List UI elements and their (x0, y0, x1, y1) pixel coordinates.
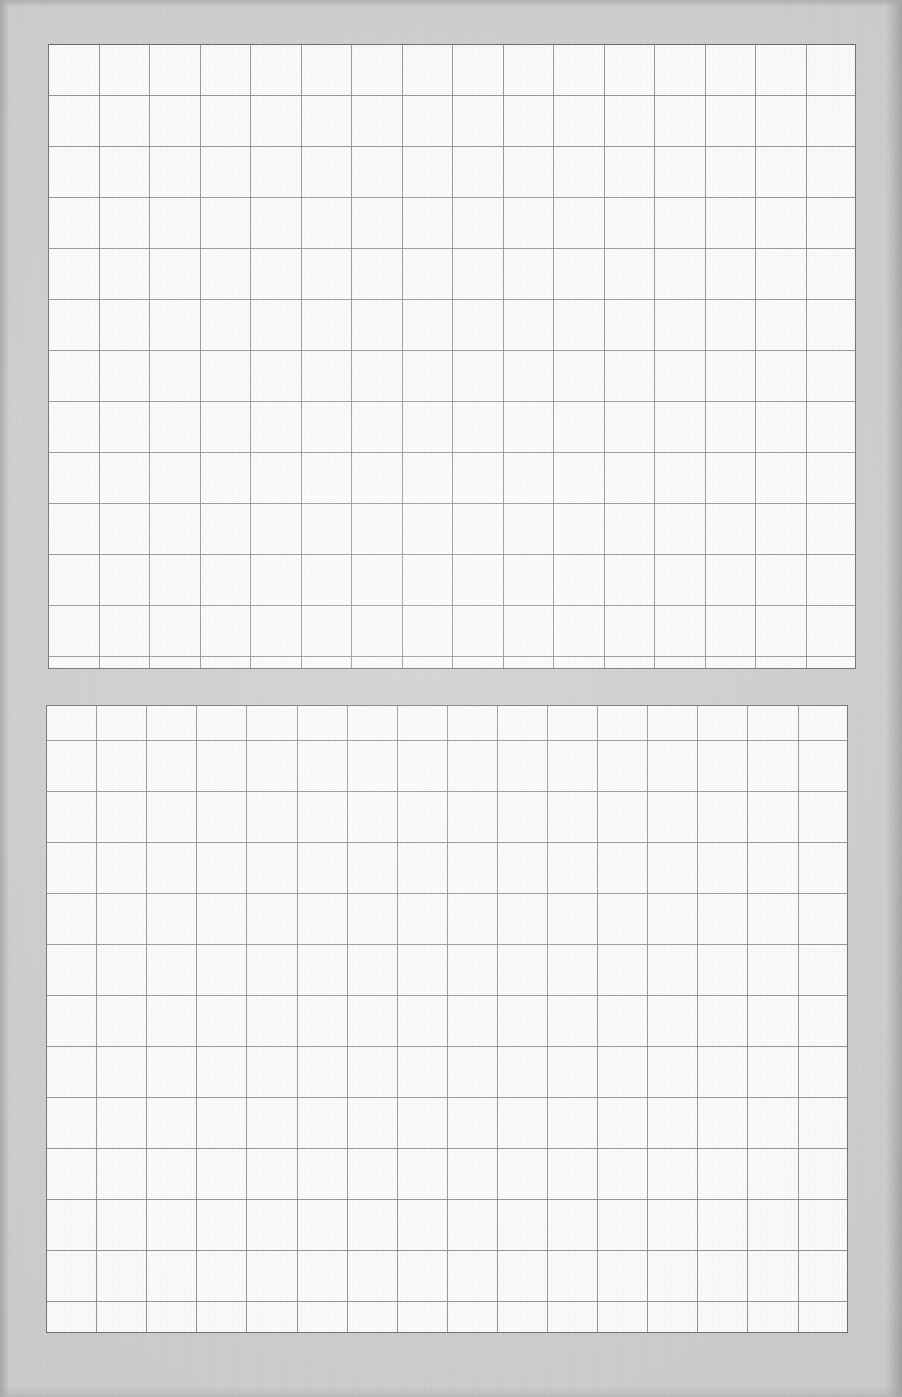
grid-table-bottom (46, 705, 848, 1333)
grid-line-vertical (604, 44, 605, 669)
grid-line-horizontal (48, 197, 856, 198)
scan-edge-top (0, 0, 902, 7)
grid-line-vertical (351, 44, 352, 669)
grid-border-vertical (46, 705, 47, 1333)
grid-line-horizontal (46, 1097, 848, 1098)
scan-edge-right (886, 0, 902, 1397)
grid-line-horizontal (46, 1301, 848, 1302)
grid-line-horizontal (48, 452, 856, 453)
grid-line-horizontal (46, 893, 848, 894)
scanned-page (0, 0, 902, 1397)
grid-line-vertical (705, 44, 706, 669)
grid-line-horizontal (46, 995, 848, 996)
grid-line-vertical (553, 44, 554, 669)
grid-line-vertical (297, 705, 298, 1333)
grid-line-horizontal (46, 1046, 848, 1047)
grid-line-horizontal (46, 944, 848, 945)
grid-line-vertical (149, 44, 150, 669)
grid-line-horizontal (46, 740, 848, 741)
scan-edge-left (0, 0, 9, 1397)
grid-line-vertical (806, 44, 807, 669)
grid-line-vertical (798, 705, 799, 1333)
grid-border-vertical (855, 44, 856, 669)
grid-line-vertical (250, 44, 251, 669)
grid-line-horizontal (48, 503, 856, 504)
grid-line-horizontal (48, 299, 856, 300)
grid-border-top (48, 44, 856, 45)
grid-line-vertical (246, 705, 247, 1333)
grid-table-top (48, 44, 856, 669)
grid-line-horizontal (46, 1148, 848, 1149)
grid-line-vertical (697, 705, 698, 1333)
grid-line-vertical (755, 44, 756, 669)
grid-line-vertical (647, 705, 648, 1333)
grid-line-horizontal (48, 248, 856, 249)
grid-line-horizontal (46, 1199, 848, 1200)
grid-line-vertical (301, 44, 302, 669)
grid-border-bottom (46, 1332, 848, 1333)
grid-line-horizontal (48, 656, 856, 657)
grid-line-vertical (397, 705, 398, 1333)
grid-line-horizontal (46, 791, 848, 792)
grid-lines-top (48, 44, 856, 669)
grid-border-vertical (48, 44, 49, 669)
grid-line-vertical (402, 44, 403, 669)
grid-lines-bottom (46, 705, 848, 1333)
grid-border-top (46, 705, 848, 706)
grid-line-horizontal (46, 842, 848, 843)
grid-line-vertical (747, 705, 748, 1333)
grid-line-vertical (597, 705, 598, 1333)
grid-line-horizontal (46, 1250, 848, 1251)
grid-line-vertical (196, 705, 197, 1333)
grid-line-vertical (547, 705, 548, 1333)
grid-line-horizontal (48, 605, 856, 606)
grid-line-vertical (497, 705, 498, 1333)
grid-border-vertical (847, 705, 848, 1333)
grid-line-vertical (447, 705, 448, 1333)
grid-line-vertical (99, 44, 100, 669)
grid-border-bottom (48, 668, 856, 669)
scan-edge-bottom (0, 1387, 902, 1397)
grid-line-vertical (452, 44, 453, 669)
grid-line-vertical (347, 705, 348, 1333)
grid-line-vertical (503, 44, 504, 669)
grid-line-vertical (654, 44, 655, 669)
grid-line-horizontal (48, 554, 856, 555)
grid-line-horizontal (48, 401, 856, 402)
grid-line-vertical (146, 705, 147, 1333)
grid-line-horizontal (48, 350, 856, 351)
grid-line-horizontal (48, 95, 856, 96)
grid-line-vertical (96, 705, 97, 1333)
grid-line-horizontal (48, 146, 856, 147)
grid-line-vertical (200, 44, 201, 669)
